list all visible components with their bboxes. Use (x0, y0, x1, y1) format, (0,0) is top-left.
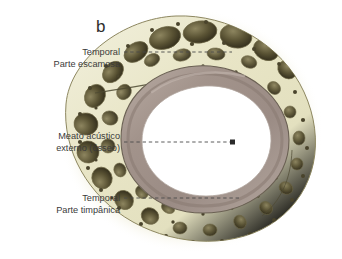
callout-tympanic-line2: Parte timpânica (8, 205, 120, 217)
callout-temporal-parte-timpanica: Temporal Parte timpânica (8, 193, 120, 216)
callout-temporal-parte-escamosa: Temporal Parte escamosa (8, 47, 120, 70)
external-acoustic-meatus-cross-section-figure (0, 0, 342, 259)
callout-meatus-line2: externo (ósseo) (8, 143, 120, 155)
callout-squamous-line2: Parte escamosa (8, 59, 120, 71)
callout-squamous-line1: Temporal (8, 47, 120, 59)
meatus-canal-lumen (142, 86, 271, 196)
callout-meatus-line1: Meato acústico (8, 131, 120, 143)
callout-meato-acustico-externo: Meato acústico externo (ósseo) (8, 131, 120, 154)
callout-tympanic-line1: Temporal (8, 193, 120, 205)
panel-letter-b: b (96, 18, 105, 35)
leader-endpoint-meatus-dot (230, 140, 235, 145)
